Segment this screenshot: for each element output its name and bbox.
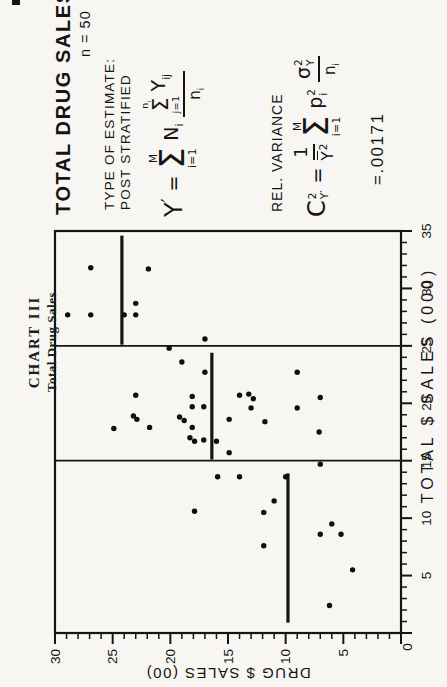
- data-point: [88, 265, 93, 270]
- chart-number: CHART III: [26, 242, 43, 442]
- data-point: [190, 404, 195, 409]
- fraction-denominator: ni: [185, 88, 206, 100]
- data-point: [318, 532, 323, 537]
- scan-artifact: [12, 0, 20, 5]
- y-tick-label: 20: [163, 649, 178, 664]
- data-point: [192, 509, 197, 514]
- x-tick-label: 5: [419, 572, 434, 580]
- data-point: [318, 395, 323, 400]
- data-point: [192, 438, 197, 443]
- data-point: [133, 393, 138, 398]
- observation-term: Yij: [148, 74, 172, 91]
- data-point: [283, 474, 288, 479]
- data-point: [111, 426, 116, 431]
- equals-sign: =: [306, 168, 328, 184]
- x-tick-label: 10: [419, 511, 434, 526]
- rotated-chart-page: 5101520253035510152025300TOTAL $ SALES (…: [0, 0, 447, 687]
- estimate-type-label: TYPE OF ESTIMATE:: [102, 58, 117, 210]
- data-point: [246, 391, 251, 396]
- data-point: [65, 312, 70, 317]
- data-point: [226, 450, 231, 455]
- data-point: [166, 345, 171, 350]
- inner-summation: ni Σ j=1: [140, 95, 181, 113]
- estimate-formula: Y′ = M Σ i=1 Ni ni Σ j=1 Yij ni: [140, 71, 206, 217]
- formula-lhs: C2Y′: [303, 190, 331, 217]
- data-point: [187, 435, 192, 440]
- data-point: [214, 438, 219, 443]
- data-point: [295, 405, 300, 410]
- data-point: [146, 266, 151, 271]
- y-bar: Y: [317, 151, 337, 160]
- sigma-glyph: Σ: [159, 148, 187, 169]
- data-point: [338, 532, 343, 537]
- x-axis-title: TOTAL $ SALES (000): [419, 267, 436, 504]
- data-point: [122, 312, 127, 317]
- variance-formula: C2Y′ = 1 Y2 M Σ i=1 p2i σ2Y ni: [292, 56, 341, 217]
- sigma-glyph: Σ: [303, 116, 331, 137]
- data-point: [237, 393, 242, 398]
- stratum-mean-fraction: ni Σ j=1 Yij ni: [140, 71, 206, 117]
- data-point: [327, 603, 332, 608]
- data-point: [262, 419, 267, 424]
- data-point: [179, 359, 184, 364]
- y-tick-label: 25: [105, 649, 120, 664]
- estimate-type-value: POST STRATIFIED: [118, 74, 133, 210]
- data-point: [190, 425, 195, 430]
- y-tick-label: 30: [48, 649, 63, 664]
- data-point: [202, 370, 207, 375]
- stratum-weight-term: Ni: [160, 124, 185, 141]
- panel-title: TOTAL DRUG SALES: [52, 0, 75, 215]
- data-point: [88, 312, 93, 317]
- data-point: [316, 429, 321, 434]
- y-axis-title: DRUG $ SALES (00): [145, 665, 311, 682]
- data-point: [295, 370, 300, 375]
- fraction-denominator: ni: [320, 63, 341, 75]
- plot-border: [55, 231, 401, 633]
- fraction-denominator: Y2: [315, 144, 341, 161]
- data-point: [147, 425, 152, 430]
- data-point: [202, 336, 207, 341]
- data-point: [181, 418, 186, 423]
- data-point: [251, 396, 256, 401]
- data-point: [201, 404, 206, 409]
- data-point: [350, 567, 355, 572]
- chart-header: CHART III Total Drug Sales: [26, 242, 60, 442]
- y-tick-label: 15: [221, 649, 236, 664]
- origin-tick-label: 0: [400, 643, 415, 651]
- data-point: [261, 543, 266, 548]
- data-point: [133, 301, 138, 306]
- x-tick-label: 35: [419, 223, 434, 238]
- sigma-glyph: Σ: [152, 98, 171, 111]
- inverse-mean-square-fraction: 1 Y2: [292, 144, 341, 161]
- data-point: [248, 405, 253, 410]
- rel-variance-result: =.00171: [368, 113, 388, 185]
- data-point: [133, 312, 138, 317]
- variance-fraction: σ2Y ni: [292, 56, 341, 82]
- data-point: [190, 394, 195, 399]
- data-point: [131, 413, 136, 418]
- rel-variance-label: REL. VARIANCE: [269, 93, 285, 212]
- equals-sign: =: [162, 176, 184, 192]
- data-point: [177, 414, 182, 419]
- data-point: [237, 474, 242, 479]
- y-tick-label: 10: [278, 649, 293, 664]
- sup-sub-stack: 2Y′: [306, 190, 330, 199]
- summation: M Σ i=1: [148, 148, 197, 169]
- data-point: [201, 437, 206, 442]
- data-point: [215, 474, 220, 479]
- data-point: [318, 461, 323, 466]
- proportion-term: p2i: [304, 89, 329, 109]
- data-point: [271, 498, 276, 503]
- sample-size-label: n = 50: [77, 10, 93, 57]
- chart-subtitle: Total Drug Sales: [44, 242, 60, 442]
- scanned-page: { "page": { "background": "#f7f6f2", "in…: [0, 0, 447, 687]
- y-tick-label: 5: [336, 649, 351, 657]
- data-point: [226, 417, 231, 422]
- formula-lhs: Y′: [158, 198, 188, 217]
- prime-mark: ′: [158, 198, 178, 202]
- summation: M Σ i=1: [292, 116, 341, 137]
- data-point: [329, 521, 334, 526]
- data-point: [261, 510, 266, 515]
